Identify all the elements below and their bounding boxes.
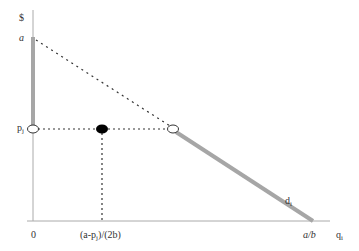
x-tick-end: a/b <box>303 230 316 240</box>
x-tick-mid-tail: )/(2b) <box>98 229 121 240</box>
filled-point <box>96 125 108 134</box>
y-tick-pj: pj <box>17 123 24 135</box>
x-axis-label: qi <box>336 230 343 242</box>
x-tick-zero: 0 <box>31 230 36 240</box>
y-tick-a: a <box>19 33 24 43</box>
demand-diagram <box>0 0 359 251</box>
demand-curve-label-sub: i <box>290 200 292 208</box>
dotted-demand-extension <box>36 40 170 126</box>
y-axis-label: $ <box>19 13 24 23</box>
y-tick-pj-sub: j <box>22 127 24 135</box>
open-point-kink <box>168 125 179 133</box>
demand-curve-label: di <box>285 196 292 208</box>
open-point-axis <box>28 125 39 133</box>
x-axis-label-sub: i <box>341 234 343 242</box>
x-tick-mid-a: (a-p <box>80 229 96 240</box>
x-tick-mid: (a-pj)/(2b) <box>80 230 121 242</box>
demand-line <box>176 132 313 221</box>
